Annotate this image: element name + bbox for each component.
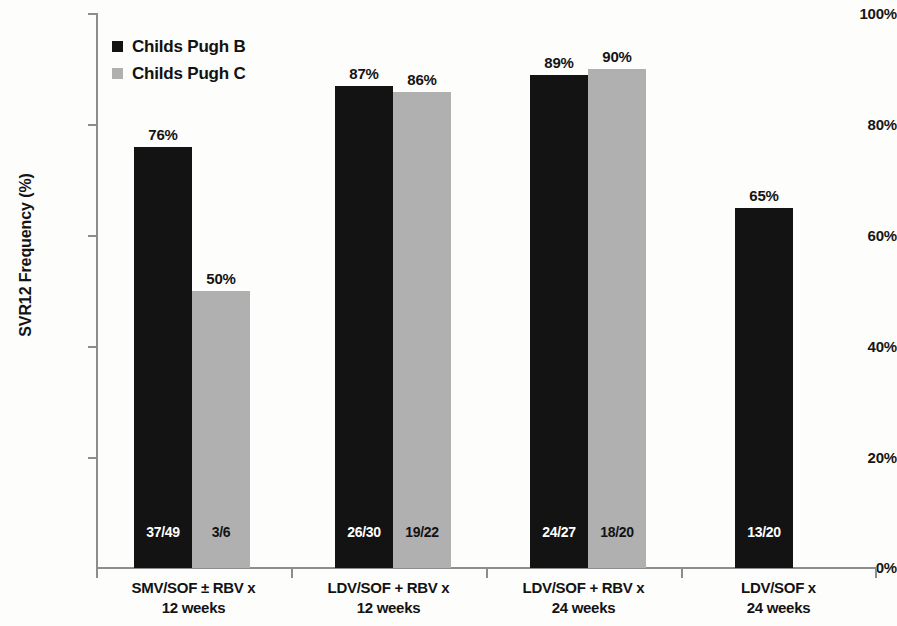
bar-group3-series-b[interactable]: 65% 13/20 [735, 208, 793, 568]
x-category-label-1-line2: 12 weeks [291, 598, 486, 618]
bar-fraction-label: 26/30 [347, 524, 381, 540]
y-tick-40 [88, 346, 96, 348]
y-axis-title: SVR12 Frequency (%) [17, 75, 35, 435]
bar-fraction-label: 13/20 [747, 524, 781, 540]
x-tick-1 [291, 569, 293, 578]
bar-value-label: 50% [206, 270, 235, 287]
x-category-label-2-line1: LDV/SOF + RBV x [523, 579, 645, 596]
bar-group2-series-b[interactable]: 89% 24/27 [530, 75, 588, 568]
x-category-label-2-line2: 24 weeks [486, 598, 681, 618]
y-tick-20 [88, 457, 96, 459]
x-category-label-3-line1: LDV/SOF x [741, 579, 816, 596]
x-category-label-0-line1: SMV/SOF ± RBV x [132, 579, 256, 596]
x-tick-4 [875, 569, 877, 578]
x-tick-3 [681, 569, 683, 578]
x-category-label-1: LDV/SOF + RBV x 12 weeks [291, 578, 486, 618]
x-category-label-1-line1: LDV/SOF + RBV x [328, 579, 450, 596]
bar-fraction-label: 24/27 [542, 524, 576, 540]
bar-value-label: 89% [544, 54, 573, 71]
bar-group0-series-c[interactable]: 50% 3/6 [192, 291, 250, 568]
bar-value-label: 86% [407, 71, 436, 88]
bar-fraction-label: 37/49 [146, 524, 180, 540]
bar-group1-series-b[interactable]: 87% 26/30 [335, 86, 393, 568]
chart-page: SVR12 Frequency (%) 100% 80% 60% 40% 20%… [0, 0, 897, 626]
x-tick-2 [486, 569, 488, 578]
bar-group0-series-b[interactable]: 76% 37/49 [134, 147, 192, 568]
bar-value-label: 90% [602, 48, 631, 65]
y-tick-80 [88, 124, 96, 126]
y-tick-60 [88, 235, 96, 237]
bar-group1-series-c[interactable]: 86% 19/22 [393, 92, 451, 568]
bar-fraction-label: 18/20 [600, 524, 634, 540]
x-tick-0 [96, 569, 98, 578]
bar-fraction-label: 19/22 [405, 524, 439, 540]
x-category-label-3-line2: 24 weeks [681, 598, 876, 618]
x-category-label-0: SMV/SOF ± RBV x 12 weeks [96, 578, 291, 618]
x-category-label-2: LDV/SOF + RBV x 24 weeks [486, 578, 681, 618]
bar-value-label: 76% [148, 126, 177, 143]
bar-fraction-label: 3/6 [212, 524, 231, 540]
bar-group2-series-c[interactable]: 90% 18/20 [588, 69, 646, 568]
x-category-label-3: LDV/SOF x 24 weeks [681, 578, 876, 618]
plot-area: 76% 37/49 50% 3/6 87% 26/30 86% 19/22 89… [96, 14, 876, 568]
bar-value-label: 87% [349, 65, 378, 82]
x-category-label-0-line2: 12 weeks [96, 598, 291, 618]
y-tick-100 [88, 13, 96, 15]
bar-value-label: 65% [749, 187, 778, 204]
